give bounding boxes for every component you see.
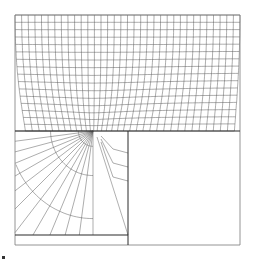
corner-mark — [2, 256, 5, 259]
upper-mesh-region — [15, 15, 240, 131]
lower-left-fan-region — [15, 131, 128, 235]
mesh-diagram — [0, 0, 255, 260]
